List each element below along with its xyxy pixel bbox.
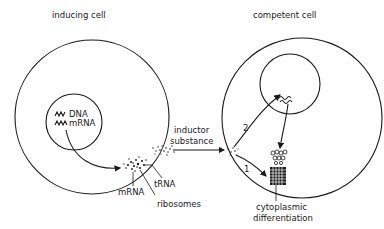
polysome-icon	[271, 150, 287, 165]
competent-cell: competent cell 2 1	[222, 10, 382, 223]
mrna-nucleus-label: mRNA	[69, 118, 96, 128]
inducing-cell-title: inducing cell	[52, 10, 106, 20]
diagram-canvas: inducing cell DNA mRNA	[0, 0, 384, 229]
inducing-cell: inducing cell DNA mRNA	[15, 10, 202, 209]
activated-gene-icon	[279, 97, 291, 100]
pathway-2-label: 2	[243, 123, 248, 133]
ribosome-cluster-icon	[123, 156, 147, 172]
nuclear-output-arrow	[280, 104, 288, 148]
trna-label: tRNA	[154, 179, 176, 189]
dna-icon	[55, 112, 65, 116]
activated-gene-icon-2	[280, 101, 292, 104]
inductor-transfer: inductor substance	[170, 125, 224, 150]
mrna-cytoplasm-label: mRNA	[118, 187, 145, 197]
mrna-icon	[55, 121, 67, 125]
ribosomes-label: ribosomes	[157, 199, 202, 209]
outcome-label-line2: differentiation	[253, 213, 313, 223]
competent-cell-title: competent cell	[253, 10, 316, 20]
pathway-2-arrow	[234, 95, 280, 147]
inductor-label-line1: inductor	[174, 125, 210, 135]
inductor-label-line2: substance	[170, 136, 213, 146]
differentiated-cytoplasm-icon	[270, 167, 286, 185]
pathway-1-arrow	[236, 155, 266, 176]
pathway-1-label: 1	[244, 164, 249, 174]
mrna-export-arrow	[66, 130, 120, 168]
outcome-label-line1: cytoplasmic	[256, 202, 307, 212]
inducing-cell-membrane	[15, 40, 169, 194]
competent-cell-membrane	[222, 38, 382, 198]
